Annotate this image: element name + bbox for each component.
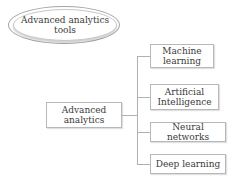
node-machine-learning: Machine learning bbox=[150, 44, 214, 68]
node-line-1: Machine bbox=[162, 46, 201, 56]
root-connector bbox=[122, 115, 137, 116]
root-node: Advanced analytics bbox=[46, 102, 122, 128]
node-line-1: Neural networks bbox=[151, 122, 225, 142]
branch-artificial-intelligence bbox=[137, 97, 150, 98]
branch-neural-networks bbox=[137, 132, 150, 133]
node-artificial-intelligence: Artificial Intelligence bbox=[150, 84, 219, 110]
trunk-line bbox=[137, 56, 138, 165]
node-deep-learning: Deep learning bbox=[150, 154, 226, 174]
node-line-2: learning bbox=[162, 56, 201, 66]
node-line-1: Artificial bbox=[157, 87, 211, 97]
branch-deep-learning bbox=[137, 164, 150, 165]
title-line-1: Advanced analytics bbox=[21, 15, 109, 25]
node-line-2: Intelligence bbox=[157, 97, 211, 107]
root-line-1: Advanced bbox=[62, 105, 107, 115]
node-neural-networks: Neural networks bbox=[150, 122, 226, 142]
title-node: Advanced analytics tools bbox=[13, 9, 117, 41]
branch-machine-learning bbox=[137, 56, 150, 57]
root-line-2: analytics bbox=[62, 115, 107, 125]
node-line-1: Deep learning bbox=[156, 159, 221, 169]
title-line-2: tools bbox=[21, 25, 109, 35]
